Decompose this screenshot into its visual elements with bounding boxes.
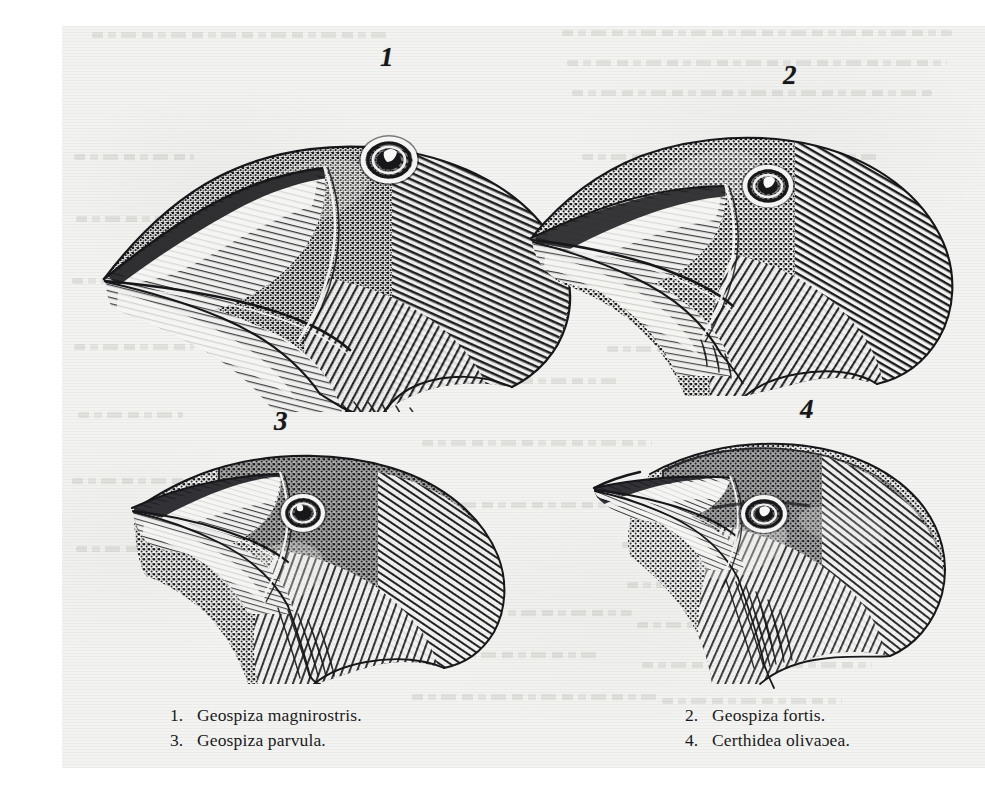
caption-entry-4: 4. Certhidea olivaɔea.: [685, 728, 850, 753]
figure-numeral-1: 1: [380, 44, 394, 71]
caption-number-3: 3.: [170, 728, 197, 753]
caption-column-right: 2. Geospiza fortis. 4. Certhidea olivaɔe…: [685, 703, 850, 753]
bird-head-figure-2: [525, 108, 975, 396]
eye-figure-1: [359, 135, 419, 185]
caption-entry-1: 1. Geospiza magnirostris.: [170, 703, 362, 728]
caption-column-left: 1. Geospiza magnirostris. 3. Geospiza pa…: [170, 703, 362, 753]
bird-head-figure-3: [128, 438, 518, 684]
caption-entry-3: 3. Geospiza parvula.: [170, 728, 362, 753]
caption-species-2: Geospiza fortis.: [712, 703, 825, 728]
bird-head-figure-1: [92, 82, 582, 412]
eye-figure-3: [279, 493, 327, 533]
caption-species-3: Geospiza parvula.: [197, 728, 326, 753]
caption-species-1: Geospiza magnirostris.: [197, 703, 362, 728]
figure-numeral-2: 2: [783, 62, 797, 89]
caption-entry-2: 2. Geospiza fortis.: [685, 703, 850, 728]
eye-figure-2: [741, 164, 795, 208]
caption-number-2: 2.: [685, 703, 712, 728]
finch-plate: 1 2 3 4: [0, 0, 985, 801]
caption-number-1: 1.: [170, 703, 197, 728]
figure-numeral-3: 3: [274, 408, 288, 435]
bird-head-figure-4: [592, 430, 962, 692]
eye-figure-4: [738, 494, 790, 534]
figure-numeral-4: 4: [800, 396, 814, 423]
caption-number-4: 4.: [685, 728, 712, 753]
caption-species-4: Certhidea olivaɔea.: [712, 728, 850, 753]
